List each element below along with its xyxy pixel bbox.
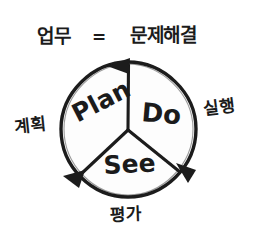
sector-annotation-do: 실행 [202,97,236,118]
sector-label-see: See [103,150,156,178]
sector-label-do: Do [141,99,183,128]
sector-annotation-see: 평가 [110,205,143,223]
equation-right-term: 문제해결 [130,26,196,45]
arrow-lower-left-icon [63,170,85,188]
equation-operator: = [92,29,106,46]
equation-left-term: 업무 [37,27,70,46]
sector-annotation-plan: 계획 [13,115,47,135]
